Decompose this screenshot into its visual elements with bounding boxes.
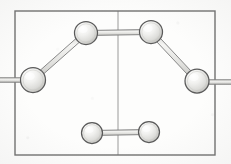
bond-stub-right-edge — [208, 80, 231, 85]
atom-left — [21, 68, 46, 93]
atom-bottom-left — [82, 123, 103, 144]
structure-canvas — [0, 0, 231, 164]
atom-top-left — [75, 22, 98, 45]
structure-figure — [0, 0, 231, 164]
atom-top-right — [140, 21, 163, 44]
bond-stub-left-edge — [0, 78, 22, 83]
atom-bottom-right — [139, 122, 160, 143]
atom-right — [185, 69, 209, 93]
